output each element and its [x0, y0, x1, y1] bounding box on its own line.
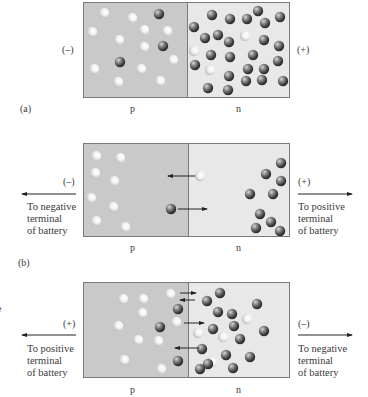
electron-particle [275, 12, 285, 22]
hole-particle [99, 8, 109, 18]
electron-particle [197, 344, 207, 354]
hole-particle [91, 216, 101, 226]
electron-particle [276, 176, 286, 186]
electron-particle [278, 76, 288, 86]
electron-particle [257, 75, 267, 85]
hole-particle [139, 42, 149, 52]
electron-particle [275, 226, 285, 236]
electron-particle [225, 14, 235, 24]
electron-particle [228, 363, 238, 373]
electron-particle [221, 350, 231, 360]
electron-particle [229, 321, 239, 331]
pn-junction-diagram [0, 0, 368, 397]
electron-particle [248, 50, 258, 60]
hole-particle [138, 294, 148, 304]
electron-particle [268, 189, 278, 199]
hole-particle [193, 328, 203, 338]
hole-particle [136, 64, 146, 74]
electron-particle [173, 356, 183, 366]
hole-particle [137, 308, 147, 318]
electron-particle [224, 71, 234, 81]
electron-particle [189, 22, 199, 32]
electron-particle [202, 296, 212, 306]
electron-particle [173, 304, 183, 314]
electron-particle [225, 52, 235, 62]
electron-particle [235, 334, 245, 344]
hole-particle [205, 65, 215, 75]
electron-particle [241, 76, 251, 86]
hole-particle [119, 355, 129, 365]
hole-particle [86, 193, 96, 203]
electron-particle [259, 35, 269, 45]
electron-particle [207, 10, 217, 20]
electron-particle [259, 64, 269, 74]
panel-a [83, 2, 290, 98]
panel-b [83, 143, 290, 237]
hole-particle [127, 13, 137, 23]
electron-particle [154, 9, 164, 19]
hole-particle [118, 294, 128, 304]
hole-particle [120, 222, 130, 232]
panel-c [83, 282, 290, 378]
electron-particle [261, 169, 271, 179]
hole-particle [108, 202, 118, 212]
electron-particle [223, 85, 233, 95]
hole-particle [115, 153, 125, 163]
electron-particle [276, 158, 286, 168]
hole-particle [133, 335, 143, 345]
hole-particle [189, 46, 199, 56]
electron-particle [190, 60, 200, 70]
n-region [187, 2, 290, 98]
electron-particle [155, 322, 165, 332]
hole-particle [168, 55, 178, 65]
hole-particle [91, 151, 101, 161]
electron-particle [206, 50, 216, 60]
electron-particle [243, 64, 253, 74]
electron-particle [227, 309, 237, 319]
hole-particle [109, 176, 119, 186]
electron-particle [260, 18, 270, 28]
electron-particle [273, 56, 283, 66]
electron-particle [245, 189, 255, 199]
hole-particle [113, 321, 123, 331]
electron-particle [259, 326, 269, 336]
electron-particle [266, 217, 276, 227]
hole-particle [240, 31, 250, 41]
hole-particle [87, 27, 97, 37]
hole-particle [113, 77, 123, 87]
hole-particle [139, 25, 149, 35]
electron-particle [274, 41, 284, 51]
electron-particle [195, 364, 205, 374]
electron-particle [200, 33, 210, 43]
hole-particle [156, 364, 166, 374]
hole-particle [90, 168, 100, 178]
hole-particle [242, 314, 252, 324]
electron-particle [252, 299, 262, 309]
electron-particle [166, 204, 176, 214]
hole-particle [171, 317, 181, 327]
hole-particle [218, 332, 228, 342]
electron-particle [255, 209, 265, 219]
electron-particle [251, 223, 261, 233]
hole-particle [89, 64, 99, 74]
hole-particle [165, 289, 175, 299]
electron-particle [253, 6, 263, 16]
electron-particle [115, 57, 125, 67]
electron-particle [245, 352, 255, 362]
electron-particle [158, 41, 168, 51]
electron-particle [242, 14, 252, 24]
hole-particle [195, 171, 205, 181]
hole-particle [114, 35, 124, 45]
electron-particle [213, 30, 223, 40]
hole-particle [155, 76, 165, 86]
hole-particle [162, 26, 172, 36]
electron-particle [213, 307, 223, 317]
electron-particle [215, 288, 225, 298]
electron-particle [203, 83, 213, 93]
electron-particle [224, 37, 234, 47]
hole-particle [153, 336, 163, 346]
electron-particle [208, 324, 218, 334]
